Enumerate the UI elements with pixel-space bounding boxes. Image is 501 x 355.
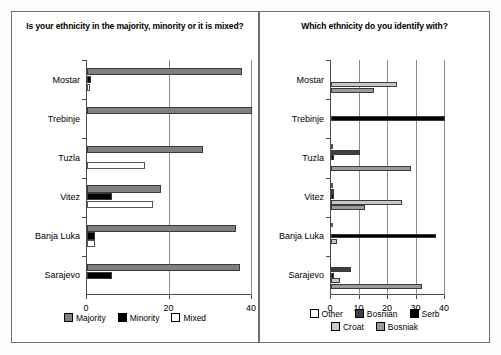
category-label-trebinje: Trebinje <box>292 114 324 124</box>
gridline <box>169 60 170 295</box>
category-label-mostar: Mostar <box>296 75 324 85</box>
bar-other-vitez <box>331 183 333 188</box>
bar-croat-sarajevo <box>331 278 340 283</box>
legend-item-bosnian[interactable]: Bosnian <box>355 308 398 321</box>
y-tick <box>326 60 330 61</box>
legend-swatch-mixed-icon <box>171 313 180 322</box>
bar-majority-tuzla <box>87 146 203 153</box>
bar-minority-banja-luka <box>87 232 95 239</box>
legend-row: CroatBosniak <box>260 321 489 334</box>
y-tick <box>326 138 330 139</box>
bar-minority-vitez <box>87 193 112 200</box>
legend-label: Other <box>322 309 343 319</box>
y-tick <box>82 99 86 100</box>
legend-label: Croat <box>343 322 364 332</box>
y-tick <box>326 99 330 100</box>
legend-item-minority[interactable]: Minority <box>118 312 160 325</box>
gridline <box>251 60 252 295</box>
legend-swatch-majority-icon <box>64 313 73 322</box>
bar-mixed-banja-luka <box>87 240 95 247</box>
x-tick <box>330 295 331 299</box>
bar-croat-mostar <box>331 82 397 87</box>
y-tick <box>82 256 86 257</box>
bar-serb-trebinje <box>331 116 445 121</box>
bar-mixed-vitez <box>87 201 153 208</box>
y-tick <box>82 178 86 179</box>
category-label-tuzla: Tuzla <box>58 153 80 163</box>
bar-majority-vitez <box>87 185 161 192</box>
chart-title-left: Is your ethnicity in the majority, minor… <box>12 21 258 32</box>
bar-serb-sarajevo <box>331 273 334 278</box>
category-label-trebinje: Trebinje <box>48 114 80 124</box>
bar-minority-mostar <box>87 76 91 83</box>
y-tick <box>82 138 86 139</box>
y-tick <box>326 178 330 179</box>
plot-area-right: 010203040MostarTrebinjeTuzlaVitezBanja L… <box>330 60 444 295</box>
x-tick <box>387 295 388 299</box>
chart-panel-left: Is your ethnicity in the majority, minor… <box>11 11 259 343</box>
y-axis-left <box>86 60 87 295</box>
legend-item-other[interactable]: Other <box>310 308 343 321</box>
legend-left: MajorityMinorityMixed <box>12 312 258 325</box>
legend-swatch-bosnian-icon <box>355 309 364 318</box>
bar-bosnian-vitez <box>331 189 334 194</box>
gridline <box>387 60 388 295</box>
y-tick <box>82 217 86 218</box>
bar-majority-sarajevo <box>87 264 240 271</box>
y-tick <box>82 60 86 61</box>
legend-item-croat[interactable]: Croat <box>331 321 364 334</box>
figure-container: Is your ethnicity in the majority, minor… <box>0 0 501 355</box>
bar-bosniak-vitez <box>331 205 365 210</box>
legend-item-mixed[interactable]: Mixed <box>171 312 206 325</box>
legend-row: OtherBosnianSerb <box>260 308 489 321</box>
gridline <box>359 60 360 295</box>
bar-bosnian-tuzla <box>331 150 360 155</box>
bar-serb-tuzla <box>331 155 334 160</box>
bar-majority-banja-luka <box>87 225 236 232</box>
legend-swatch-other-icon <box>310 309 319 318</box>
gridline <box>444 60 445 295</box>
category-label-banja-luka: Banja Luka <box>279 231 324 241</box>
plot-area-left: 02040MostarTrebinjeTuzlaVitezBanja LukaS… <box>86 60 251 295</box>
legend-label: Minority <box>130 313 160 323</box>
legend-label: Bosnian <box>367 309 398 319</box>
bar-other-banja-luka <box>331 223 333 228</box>
bar-mixed-tuzla <box>87 162 145 169</box>
bar-serb-vitez <box>331 194 334 199</box>
legend-item-majority[interactable]: Majority <box>64 312 106 325</box>
bar-croat-banja-luka <box>331 239 337 244</box>
bar-majority-mostar <box>87 68 242 75</box>
x-tick <box>86 295 87 299</box>
category-label-banja-luka: Banja Luka <box>35 231 80 241</box>
bar-serb-banja-luka <box>331 234 436 239</box>
legend-label: Bosniak <box>388 322 418 332</box>
y-axis-right <box>330 60 331 295</box>
legend-swatch-croat-icon <box>331 322 340 331</box>
category-label-mostar: Mostar <box>52 75 80 85</box>
chart-title-right: Which ethnicity do you identify with? <box>260 21 489 32</box>
x-tick <box>359 295 360 299</box>
legend-item-bosniak[interactable]: Bosniak <box>376 321 418 334</box>
x-tick <box>444 295 445 299</box>
bar-majority-trebinje <box>87 107 252 114</box>
category-label-sarajevo: Sarajevo <box>288 270 324 280</box>
legend-item-serb[interactable]: Serb <box>410 308 440 321</box>
gridline <box>416 60 417 295</box>
category-label-sarajevo: Sarajevo <box>44 270 80 280</box>
category-label-tuzla: Tuzla <box>302 153 324 163</box>
bar-mixed-mostar <box>87 84 90 91</box>
legend-row: MajorityMinorityMixed <box>12 312 258 325</box>
bar-bosnian-sarajevo <box>331 267 351 272</box>
y-tick <box>326 217 330 218</box>
legend-label: Majority <box>76 313 106 323</box>
legend-swatch-bosniak-icon <box>376 322 385 331</box>
legend-label: Serb <box>422 309 440 319</box>
legend-swatch-minority-icon <box>118 313 127 322</box>
bar-other-tuzla <box>331 144 333 149</box>
category-label-vitez: Vitez <box>304 192 324 202</box>
bar-minority-sarajevo <box>87 272 112 279</box>
bar-bosniak-sarajevo <box>331 284 422 289</box>
x-tick <box>169 295 170 299</box>
chart-panel-right: Which ethnicity do you identify with? 01… <box>259 11 490 343</box>
y-tick <box>326 256 330 257</box>
